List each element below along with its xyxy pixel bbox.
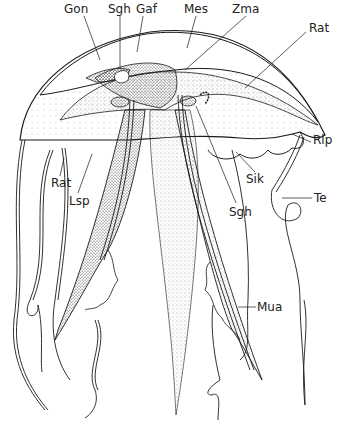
- label-rat-left: Rat: [51, 177, 71, 189]
- oral-arms: [55, 95, 262, 415]
- label-mes: Mes: [184, 3, 208, 15]
- jellyfish-drawing: [0, 0, 339, 427]
- label-rlp: Rlp: [313, 134, 332, 146]
- label-sgh-bottom: Sgh: [229, 206, 252, 218]
- label-gon: Gon: [64, 3, 88, 15]
- jellyfish-diagram: Gon Sgh Gaf Mes Zma Rat Rlp Sik Te Sgh R…: [0, 0, 339, 427]
- label-sgh-top: Sgh: [108, 3, 131, 15]
- label-zma: Zma: [232, 3, 259, 15]
- label-gaf: Gaf: [136, 3, 157, 15]
- label-mua: Mua: [257, 301, 282, 313]
- label-rat-right: Rat: [309, 22, 329, 34]
- label-sik: Sik: [246, 173, 264, 185]
- label-te: Te: [314, 192, 327, 204]
- label-lsp: Lsp: [69, 195, 90, 207]
